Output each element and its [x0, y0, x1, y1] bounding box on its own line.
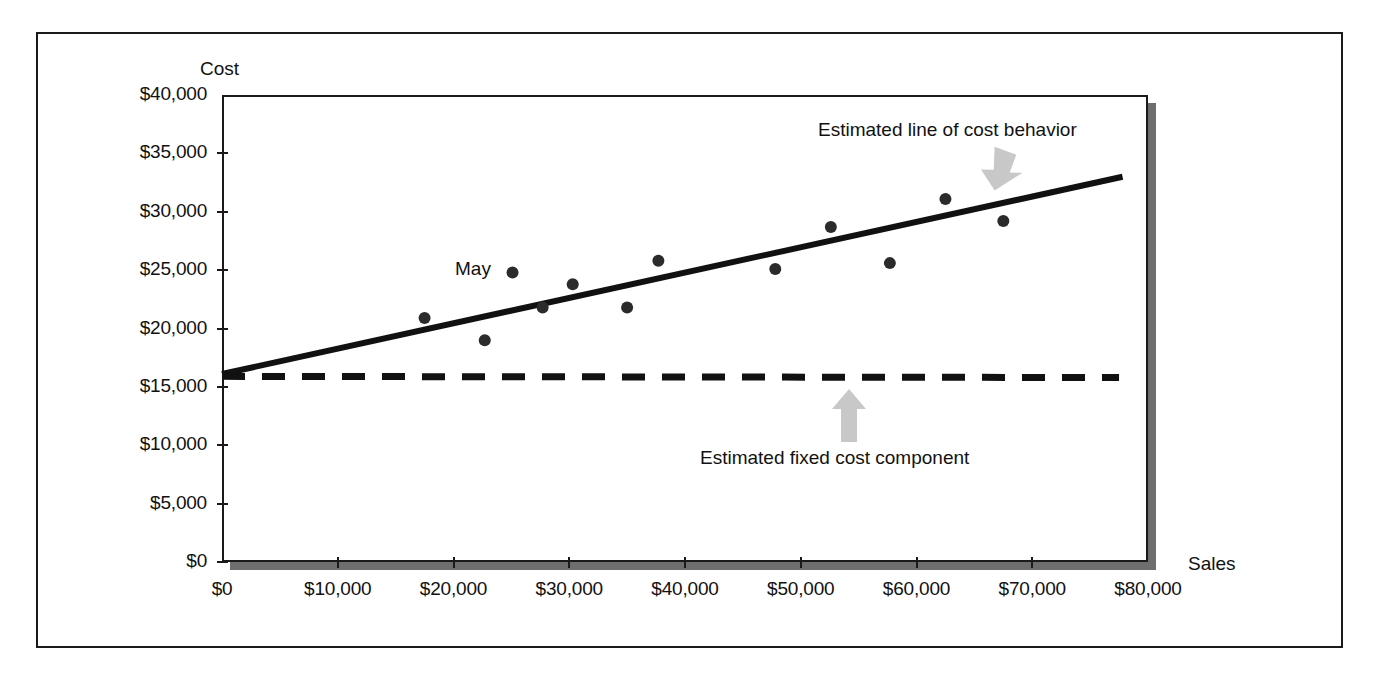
- y-tick-label: $40,000: [87, 83, 207, 105]
- figure-canvas: Cost Sales $0$5,000$10,000$15,000$20,000…: [0, 0, 1378, 680]
- x-axis-title: Sales: [1188, 553, 1236, 575]
- y-tick-label: $0: [87, 550, 207, 572]
- annotation-trend-line: Estimated line of cost behavior: [818, 119, 1077, 141]
- y-tick-label: $20,000: [87, 317, 207, 339]
- y-tick-label: $15,000: [87, 375, 207, 397]
- y-tick-label: $25,000: [87, 258, 207, 280]
- y-tick-mark: [217, 269, 228, 271]
- x-tick-mark: [916, 557, 918, 568]
- y-tick-mark: [217, 386, 228, 388]
- y-tick-mark: [217, 328, 228, 330]
- x-tick-mark: [684, 557, 686, 568]
- annotation-fixed-cost: Estimated fixed cost component: [700, 447, 969, 469]
- y-tick-label: $30,000: [87, 200, 207, 222]
- y-tick-label: $35,000: [87, 141, 207, 163]
- y-tick-mark: [217, 444, 228, 446]
- y-axis-title: Cost: [200, 58, 239, 80]
- y-tick-label: $10,000: [87, 433, 207, 455]
- x-tick-label: $80,000: [1068, 578, 1228, 600]
- x-tick-mark: [1031, 557, 1033, 568]
- y-tick-label: $5,000: [87, 492, 207, 514]
- x-tick-mark: [568, 557, 570, 568]
- annotation-point-may: May: [455, 258, 491, 280]
- plot-area: [222, 95, 1148, 562]
- y-tick-mark: [217, 211, 228, 213]
- x-tick-mark: [337, 557, 339, 568]
- x-tick-mark: [800, 557, 802, 568]
- y-tick-mark: [217, 152, 228, 154]
- x-tick-mark: [453, 557, 455, 568]
- y-tick-mark: [217, 503, 228, 505]
- y-tick-mark: [217, 561, 228, 563]
